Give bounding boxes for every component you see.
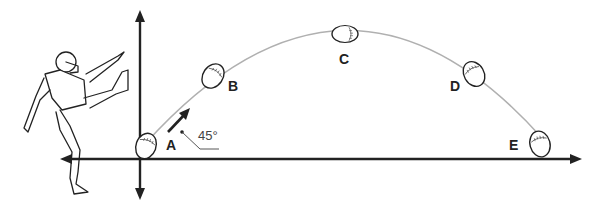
ball-c-icon [332, 26, 358, 43]
projectile-diagram: A B C D E 45° [0, 0, 597, 204]
ball-e-icon [527, 129, 553, 159]
point-label-b: B [228, 78, 238, 94]
ball-b-icon [197, 60, 228, 93]
angle-label: 45° [198, 128, 218, 143]
y-axis [135, 10, 145, 200]
ball-d-icon [459, 58, 489, 91]
point-label-d: D [450, 78, 460, 94]
velocity-arrow-icon [168, 108, 190, 132]
kicker-player-icon [24, 52, 128, 194]
trajectory-arc [145, 30, 542, 144]
point-label-a: A [166, 137, 176, 153]
point-label-e: E [509, 137, 518, 153]
ball-a-icon [132, 130, 160, 161]
point-label-c: C [339, 51, 349, 67]
